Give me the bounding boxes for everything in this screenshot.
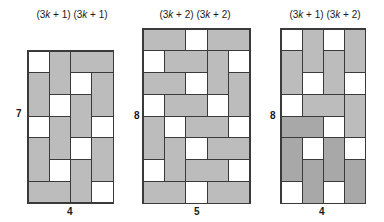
vertical-domino [207, 50, 229, 95]
horizontal-domino [185, 116, 229, 139]
horizontal-domino [164, 50, 208, 73]
vertical-domino [344, 29, 366, 74]
unit-square [70, 72, 92, 95]
unit-square [185, 181, 207, 204]
horizontal-domino [207, 29, 251, 52]
vertical-domino [302, 29, 324, 74]
top-label: (3k + 2) (3k + 2) [150, 9, 240, 20]
vertical-domino [70, 94, 92, 138]
vertical-domino [323, 137, 345, 182]
vertical-domino [49, 51, 71, 95]
horizontal-domino [207, 137, 251, 160]
unit-square [28, 51, 50, 74]
unit-square [28, 116, 50, 139]
horizontal-domino [28, 181, 72, 204]
unit-square [323, 116, 345, 139]
vertical-domino [91, 137, 113, 181]
unit-square [281, 181, 303, 204]
height-label: 8 [134, 110, 140, 121]
unit-square [228, 116, 250, 139]
horizontal-domino [302, 94, 345, 117]
vertical-domino [49, 116, 71, 160]
unit-square [185, 29, 207, 52]
horizontal-domino [207, 181, 251, 204]
width-label: 5 [194, 206, 200, 217]
unit-square [281, 94, 303, 117]
tiling-grid [142, 28, 251, 204]
vertical-domino [70, 159, 92, 203]
vertical-domino [344, 94, 366, 139]
unit-square [323, 29, 345, 52]
horizontal-domino [164, 94, 208, 117]
unit-square [49, 94, 71, 117]
vertical-domino [323, 50, 345, 95]
unit-square [164, 116, 186, 139]
width-label: 4 [319, 206, 325, 217]
width-label: 4 [67, 206, 73, 217]
horizontal-domino [281, 116, 324, 139]
unit-square [281, 29, 303, 52]
unit-square [143, 159, 165, 182]
height-label: 8 [270, 110, 276, 121]
unit-square [143, 94, 165, 117]
unit-square [302, 72, 324, 95]
vertical-domino [228, 72, 250, 117]
vertical-domino [28, 137, 50, 181]
unit-square [228, 159, 250, 182]
tiling-grid [27, 50, 114, 204]
vertical-domino [143, 116, 165, 161]
unit-square [207, 94, 229, 117]
vertical-domino [164, 137, 186, 182]
horizontal-domino [70, 51, 114, 74]
vertical-domino [91, 72, 113, 116]
unit-square [228, 50, 250, 73]
horizontal-domino [185, 159, 229, 182]
unit-square [323, 181, 345, 204]
tiling-grid [280, 28, 366, 204]
horizontal-domino [143, 72, 187, 95]
top-label: (3k + 1) (3k + 1) [27, 9, 117, 20]
height-label: 7 [16, 108, 22, 119]
unit-square [344, 72, 366, 95]
vertical-domino [28, 72, 50, 116]
unit-square [143, 50, 165, 73]
unit-square [344, 137, 366, 160]
unit-square [49, 159, 71, 182]
unit-square [185, 137, 207, 160]
top-label: (3k + 1) (3k + 2) [280, 9, 370, 20]
unit-square [302, 137, 324, 160]
horizontal-domino [143, 181, 187, 204]
horizontal-domino [143, 29, 187, 52]
unit-square [70, 137, 92, 160]
vertical-domino [281, 50, 303, 95]
unit-square [91, 181, 113, 204]
unit-square [185, 72, 207, 95]
vertical-domino [344, 159, 366, 204]
unit-square [91, 116, 113, 139]
vertical-domino [281, 137, 303, 182]
vertical-domino [302, 159, 324, 204]
